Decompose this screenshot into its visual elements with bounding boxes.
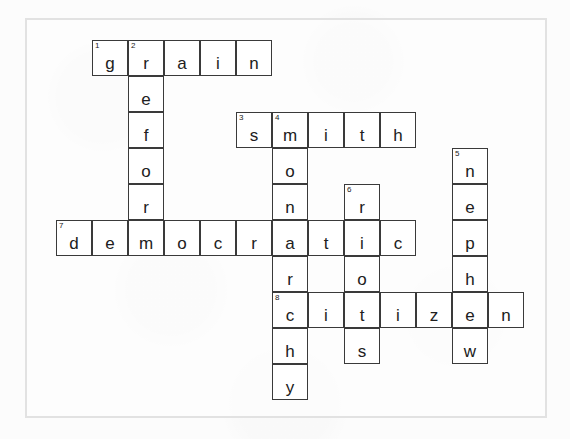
puzzle-canvas: 1g2rainefor3s4mithonrhy5nehw6ros7democra… [0,0,570,439]
crossword-cell[interactable]: w [452,328,488,364]
crossword-cell[interactable]: e [452,292,488,328]
crossword-cell[interactable]: o [164,220,200,256]
cell-letter: f [129,127,163,144]
crossword-cell[interactable]: a [164,40,200,76]
crossword-cell[interactable]: y [272,364,308,400]
crossword-cell[interactable]: c [380,220,416,256]
cell-letter: h [453,271,487,288]
cell-clue-number: 3 [239,113,243,122]
cell-letter: r [129,199,163,216]
cell-letter: t [309,235,343,252]
cell-letter: o [129,163,163,180]
cell-letter: r [273,271,307,288]
crossword-cell[interactable]: e [92,220,128,256]
cell-clue-number: 5 [455,149,459,158]
crossword-cell[interactable]: 1g [92,40,128,76]
cell-clue-number: 7 [59,221,63,230]
crossword-cell[interactable]: c [200,220,236,256]
crossword-cell[interactable]: n [236,40,272,76]
crossword-cell[interactable]: n [488,292,524,328]
crossword-cell[interactable]: i [380,292,416,328]
cell-letter: g [93,55,127,72]
crossword-cell[interactable]: o [272,148,308,184]
cell-letter: n [273,199,307,216]
cell-letter: r [237,235,271,252]
crossword-cell[interactable]: s [344,328,380,364]
crossword-grid: 1g2rainefor3s4mithonrhy5nehw6ros7democra… [0,0,570,439]
cell-letter: e [93,235,127,252]
cell-letter: e [453,199,487,216]
crossword-cell[interactable]: i [308,112,344,148]
cell-clue-number: 4 [275,113,279,122]
crossword-cell[interactable]: e [128,76,164,112]
cell-letter: n [237,55,271,72]
cell-letter: i [309,307,343,324]
cell-letter: w [453,343,487,360]
crossword-cell[interactable]: p [452,220,488,256]
cell-letter: r [345,199,379,216]
crossword-cell[interactable]: r [272,256,308,292]
crossword-cell[interactable]: 3s [236,112,272,148]
cell-clue-number: 2 [131,41,135,50]
cell-letter: r [129,55,163,72]
cell-letter: c [273,307,307,324]
crossword-cell[interactable]: t [344,112,380,148]
cell-letter: s [237,127,271,144]
cell-letter: o [165,235,199,252]
crossword-cell[interactable]: i [200,40,236,76]
crossword-cell[interactable]: 5n [452,148,488,184]
crossword-cell[interactable]: 2r [128,40,164,76]
cell-letter: e [453,307,487,324]
crossword-cell[interactable]: r [128,184,164,220]
crossword-cell[interactable]: 4m [272,112,308,148]
crossword-cell[interactable]: h [380,112,416,148]
crossword-cell[interactable]: o [128,148,164,184]
cell-letter: o [273,163,307,180]
cell-letter: y [273,379,307,396]
crossword-cell[interactable]: i [344,220,380,256]
crossword-cell[interactable]: f [128,112,164,148]
cell-letter: m [273,127,307,144]
cell-letter: i [381,307,415,324]
cell-letter: e [129,91,163,108]
cell-letter: h [381,127,415,144]
crossword-cell[interactable]: t [308,220,344,256]
crossword-cell[interactable]: z [416,292,452,328]
cell-letter: n [453,163,487,180]
cell-clue-number: 1 [95,41,99,50]
cell-letter: s [345,343,379,360]
crossword-cell[interactable]: e [452,184,488,220]
crossword-cell[interactable]: 8c [272,292,308,328]
cell-letter: i [309,127,343,144]
cell-letter: i [345,235,379,252]
cell-letter: n [489,307,523,324]
crossword-cell[interactable]: 7d [56,220,92,256]
crossword-cell[interactable]: h [452,256,488,292]
cell-letter: h [273,343,307,360]
crossword-cell[interactable]: m [128,220,164,256]
cell-letter: m [129,235,163,252]
cell-letter: a [273,235,307,252]
cell-clue-number: 8 [275,293,279,302]
cell-clue-number: 6 [347,185,351,194]
cell-letter: c [381,235,415,252]
cell-letter: p [453,235,487,252]
crossword-cell[interactable]: h [272,328,308,364]
cell-letter: a [165,55,199,72]
crossword-cell[interactable]: o [344,256,380,292]
crossword-cell[interactable]: 6r [344,184,380,220]
crossword-cell[interactable]: t [344,292,380,328]
cell-letter: z [417,307,451,324]
cell-letter: t [345,127,379,144]
cell-letter: c [201,235,235,252]
cell-letter: o [345,271,379,288]
crossword-cell[interactable]: n [272,184,308,220]
crossword-cell[interactable]: i [308,292,344,328]
cell-letter: t [345,307,379,324]
crossword-cell[interactable]: a [272,220,308,256]
cell-letter: i [201,55,235,72]
crossword-cell[interactable]: r [236,220,272,256]
cell-letter: d [57,235,91,252]
